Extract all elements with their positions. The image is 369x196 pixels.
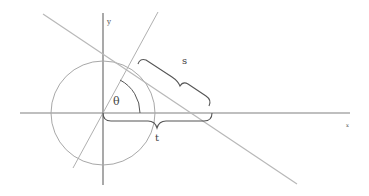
t-label: t — [155, 132, 159, 143]
y-axis-label: y — [106, 18, 111, 26]
angle-label: θ — [113, 95, 120, 108]
angle-arc — [120, 80, 140, 113]
brace-s — [138, 60, 210, 107]
unit-circle-diagram: y x θ s t — [0, 0, 369, 196]
tangent-line — [43, 14, 297, 184]
brace-t — [103, 113, 212, 128]
s-label: s — [182, 55, 187, 66]
x-axis-label: x — [346, 122, 349, 128]
radial-line — [73, 12, 158, 168]
